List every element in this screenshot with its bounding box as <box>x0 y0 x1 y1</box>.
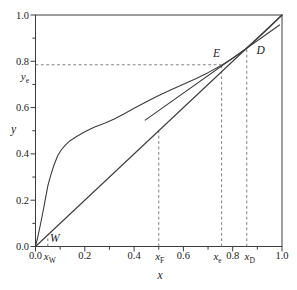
x-F-axis-label: xF <box>150 250 170 262</box>
x-e-axis-label: xe <box>208 250 228 262</box>
y-tick-label: 0.6 <box>2 102 29 113</box>
x-tick-label: 0.6 <box>170 250 196 261</box>
y-axis-title: y <box>5 123 22 135</box>
y-tick-label: 0.4 <box>2 148 29 159</box>
point-label-E: E <box>209 47 225 59</box>
y-e-axis-label: ye <box>2 70 29 82</box>
x-D-axis-label: xD <box>240 250 260 262</box>
x-W-axis-label: xW <box>40 250 60 262</box>
y-tick-label: 0.0 <box>2 241 29 252</box>
operating-line <box>145 25 279 120</box>
y-tick-label: 0.8 <box>2 56 29 67</box>
y-tick-label: 0.2 <box>2 195 29 206</box>
point-label-D: D <box>253 44 269 56</box>
y-tick-label: 1.0 <box>2 10 29 21</box>
point-label-W: W <box>47 232 63 244</box>
x-axis-title: x <box>148 269 172 281</box>
x-tick-label: 0.2 <box>72 250 98 261</box>
mccabe-thiele-diagram: 0.00.20.40.60.81.0 0.00.20.40.60.81.0 xW… <box>0 0 297 290</box>
x-tick-label: 0.4 <box>121 250 147 261</box>
x-tick-label: 1.0 <box>269 250 295 261</box>
